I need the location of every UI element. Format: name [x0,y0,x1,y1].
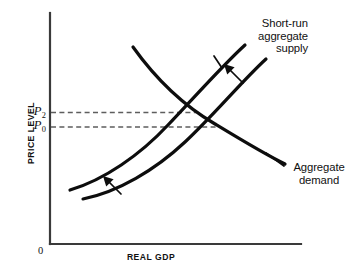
supply-curve-original [83,59,266,199]
x-axis-label: REAL GDP [96,252,206,262]
supply-shift-arrow-upper [224,64,243,83]
y-axis-label: PRICE LEVEL [26,89,36,177]
as-ad-diagram: Short-run aggregate supply Aggregate dem… [0,0,359,277]
supply-curve-label: Short-run aggregate supply [222,17,308,55]
supply-label-leader-line [214,56,222,68]
price-tick-p0: P0 [20,118,46,133]
supply-curve-shifted [70,45,245,190]
demand-curve-label: Aggregate demand [282,161,356,186]
origin-label: 0 [38,245,43,256]
price-tick-p2: P2 [20,104,46,119]
price-tick-p0-subscript: 0 [41,125,46,134]
